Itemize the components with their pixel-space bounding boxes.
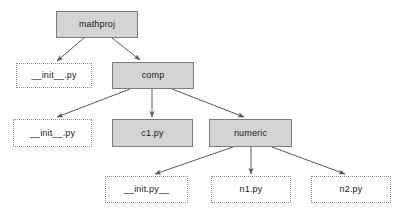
node-label-n2: n2.py bbox=[340, 185, 363, 194]
node-comp[interactable]: comp bbox=[112, 62, 194, 89]
node-init-comp[interactable]: __init__.py bbox=[13, 119, 92, 147]
edge-mathproj-init bbox=[57, 38, 84, 61]
edge-comp-numeric bbox=[172, 89, 244, 117]
edge-numeric-init bbox=[155, 147, 233, 174]
node-c1[interactable]: c1.py bbox=[112, 119, 193, 147]
node-init-root[interactable]: __init__.py bbox=[16, 63, 92, 88]
node-label-n1: n1.py bbox=[240, 185, 263, 194]
edge-mathproj-comp bbox=[112, 38, 140, 60]
node-numeric[interactable]: numeric bbox=[209, 119, 292, 147]
node-label-comp: comp bbox=[142, 71, 165, 80]
node-label-init-numeric: __init.py__ bbox=[124, 185, 169, 194]
package-hierarchy-diagram: mathproj__init__.pycomp__init__.pyc1.pyn… bbox=[0, 0, 402, 218]
node-init-numeric[interactable]: __init.py__ bbox=[105, 176, 188, 203]
node-label-c1: c1.py bbox=[141, 129, 163, 138]
edge-comp-init bbox=[57, 89, 130, 117]
node-label-numeric: numeric bbox=[234, 129, 267, 138]
node-n1[interactable]: n1.py bbox=[211, 176, 291, 203]
node-label-init-comp: __init__.py bbox=[30, 129, 75, 138]
edge-numeric-n2 bbox=[272, 147, 345, 174]
node-label-mathproj: mathproj bbox=[79, 20, 115, 29]
node-label-init-root: __init__.py bbox=[31, 71, 76, 80]
node-mathproj[interactable]: mathproj bbox=[56, 11, 138, 38]
node-n2[interactable]: n2.py bbox=[311, 176, 391, 203]
